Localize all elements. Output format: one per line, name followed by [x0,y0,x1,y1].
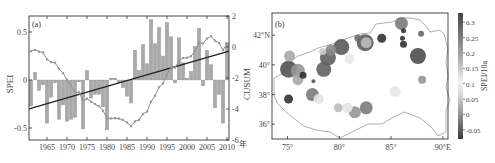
cusum-marker [162,82,164,84]
cusum-marker [142,113,144,115]
station-marker [377,34,386,43]
spei-bar [205,50,208,80]
spei-bar [145,64,148,80]
x-tick-label: 1975 [79,143,95,152]
x-tick-label: 1980 [99,143,115,152]
cusum-marker [182,57,184,59]
lon-tick-label: 85° [385,143,396,152]
station-marker [311,79,315,83]
x-tick-label: 2000 [179,143,195,152]
station-marker [390,86,401,97]
cusum-marker [58,68,60,70]
colorbar-ticks: 0.30.250.20.150.10.050-0.05 [463,19,481,135]
station-marker [395,17,408,30]
station-marker [284,50,295,61]
cusum-marker [66,79,68,81]
y-axis-title-spei: SPEI [5,75,15,94]
spei-bar [129,80,132,103]
spei-bar [185,78,188,80]
cusum-marker [62,72,64,74]
spei-bar [137,70,140,80]
station-marker [334,103,343,112]
station-marker [361,37,372,48]
cusum-marker [178,60,180,62]
spei-bars [29,20,228,130]
spei-bar [105,80,108,130]
spei-bar [197,28,200,80]
colorbar-tick-label: 0.05 [466,96,479,104]
y-tick-label: 0.5 [17,28,27,37]
x-tick-label: 1965 [39,143,55,152]
cusum-marker [126,121,128,123]
spei-bar [73,80,76,117]
colorbar-tick-label: 0.15 [466,65,479,73]
station-marker [345,54,355,64]
cusum-marker [94,103,96,105]
spei-bar [45,80,48,123]
lon-tick-label: 90°E [435,143,451,152]
cusum-marker [86,98,88,100]
cusum-marker [46,58,48,60]
y-right-tick-label: -2 [232,74,239,83]
spei-bar [161,56,164,80]
figure: 0.50-0.520-2-4-6196519701975198019851990… [0,0,495,163]
spei-bar [209,65,212,80]
cusum-marker [110,117,112,119]
cusum-marker [146,110,148,112]
spei-bar [49,80,52,97]
y-tick-label: -0.5 [14,124,27,133]
y-tick-label: 0 [23,76,27,85]
spei-bar [85,70,88,80]
cusum-marker [226,43,228,45]
spei-bar [101,80,104,107]
lat-tick-label: 40° [259,61,270,70]
x-tick-label: 2005 [199,143,215,152]
cusum-marker [42,51,44,53]
lat-tick-label: 36° [259,120,270,129]
spei-bar [125,80,128,96]
cusum-marker [106,118,108,120]
cusum-marker [50,61,52,63]
station-marker [314,94,324,104]
station-marker [418,76,426,84]
panel-b-label: (b) [275,20,285,29]
cusum-marker [186,57,188,59]
x-tick-label: 1990 [139,143,155,152]
station-marker [360,101,373,114]
y-right-tick-label: 2 [232,12,236,21]
spei-bar [189,71,192,80]
spei-bar [65,80,68,121]
y-right-tick-label: -4 [232,105,239,114]
spei-bar [177,38,180,80]
cusum-marker [222,49,224,51]
cusum-marker [70,85,72,87]
station-marker [343,103,353,113]
cusum-marker [210,35,212,37]
cusum-marker [130,125,132,127]
colorbar-tick-label: 0.3 [466,19,475,27]
station-marker [410,48,426,64]
cusum-marker [38,51,40,53]
y-right-tick-label: 0 [232,43,236,52]
x-axis-unit: 年 [239,139,247,149]
station-marker [316,62,331,77]
spei-bar [201,80,204,86]
spei-bar [37,80,40,91]
station-markers [280,17,426,118]
cusum-marker [174,67,176,69]
cusum-marker [122,119,124,121]
spei-bar [89,80,92,98]
cusum-marker [154,95,156,97]
spei-bar [93,80,96,94]
cusum-marker [54,62,56,64]
cusum-marker [114,117,116,119]
colorbar-tick-label: -0.05 [466,127,481,135]
spei-bar [61,80,64,105]
lon-tick-label: 80° [334,143,345,152]
x-tick-label: 1985 [119,143,135,152]
spei-bar [133,50,136,80]
station-marker [418,31,424,37]
cusum-marker [158,86,160,88]
spei-bar [217,80,220,94]
spei-bar [153,44,156,80]
